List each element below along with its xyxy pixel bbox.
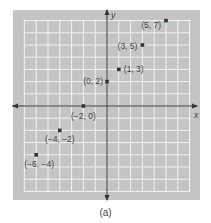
- data-point-marker: [82, 104, 86, 108]
- x-axis-left-arrow-icon: [12, 104, 18, 109]
- x-axis-right-arrow-icon: [192, 104, 198, 109]
- data-point-marker: [34, 153, 38, 157]
- axes: xy: [12, 9, 199, 201]
- data-point-label: (1, 3): [124, 64, 144, 74]
- y-axis-label: y: [110, 10, 116, 20]
- data-point-label: (−4, −2): [45, 134, 75, 144]
- data-point-marker: [117, 68, 121, 72]
- data-point-marker: [58, 129, 62, 133]
- data-point-label: (0, 2): [83, 76, 103, 86]
- data-point-label: (3, 5): [118, 41, 138, 51]
- y-axis-down-arrow-icon: [105, 195, 110, 201]
- data-point-marker: [164, 19, 168, 23]
- figure-caption: (a): [0, 207, 211, 218]
- x-axis-label: x: [193, 110, 199, 120]
- data-point-marker: [105, 80, 109, 84]
- y-axis-up-arrow-icon: [105, 9, 110, 15]
- data-point-label: (−2, 0): [71, 111, 96, 121]
- data-point-label: (−6, −4): [24, 159, 54, 169]
- data-point-marker: [141, 43, 145, 47]
- coordinate-plane: xy (5, 7)(3, 5)(1, 3)(0, 2)(−2, 0)(−4, −…: [0, 0, 211, 205]
- data-point-label: (5, 7): [141, 20, 161, 30]
